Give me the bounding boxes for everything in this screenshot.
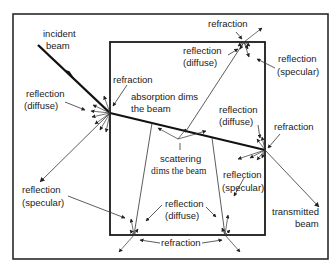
- label-scattering: scattering dims the beam: [151, 153, 207, 176]
- label-refraction-bottom: refraction: [161, 237, 201, 248]
- label-transmitted-beam: transmitted beam: [272, 206, 322, 229]
- label-reflection-diffuse-right: reflection (diffuse): [219, 104, 260, 127]
- label-refraction-right: refraction: [274, 121, 314, 132]
- diffuse-burst-entry: [91, 96, 110, 132]
- label-reflection-diffuse-left: reflection (diffuse): [24, 88, 67, 111]
- label-reflection-specular-right: reflection (specular): [222, 169, 264, 193]
- label-reflection-diffuse-bottom: reflection (diffuse): [165, 198, 206, 221]
- specular-reflection-ray-left: [40, 113, 110, 182]
- label-reflection-specular-left: reflection (specular): [22, 184, 64, 208]
- transmitted-beam: [265, 150, 319, 207]
- light-interaction-diagram: incident beam refraction reflection (dif…: [0, 0, 336, 269]
- label-reflection-diffuse-top: reflection (diffuse): [183, 45, 224, 68]
- label-absorption: absorption dims the beam: [131, 91, 201, 114]
- label-incident-beam: incident beam: [43, 28, 78, 51]
- label-refraction-entry: refraction: [113, 74, 153, 85]
- label-refraction-top: refraction: [208, 18, 248, 29]
- bottom-right-exit-burst: [222, 215, 240, 252]
- label-reflection-specular-top: reflection (specular): [277, 53, 319, 77]
